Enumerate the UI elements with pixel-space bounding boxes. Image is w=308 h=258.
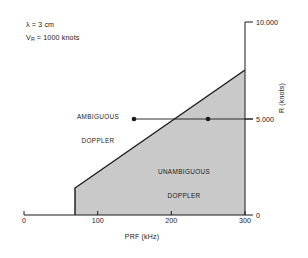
y-tick-label-10000: 10.000 bbox=[256, 18, 278, 27]
y-tick-label-0: 0 bbox=[256, 211, 260, 220]
x-tick-label-100: 100 bbox=[83, 216, 113, 225]
unambiguous-doppler-label-line1: UNAMBIGUOUS bbox=[147, 168, 221, 176]
parameter-annotations: λ = 3 cm VR = 1000 knots bbox=[26, 20, 79, 45]
unambiguous-doppler-label: UNAMBIGUOUS DOPPLER bbox=[147, 152, 221, 216]
wavelength-annotation: λ = 3 cm bbox=[26, 20, 79, 29]
ambiguous-doppler-label-line1: AMBIGUOUS bbox=[66, 113, 130, 121]
ambiguous-doppler-label-line2: DOPPLER bbox=[66, 137, 130, 145]
doppler-ambiguity-chart: λ = 3 cm VR = 1000 knots AMBIGUOUS DOPPL… bbox=[0, 0, 308, 258]
y-tick-label-5000: 5.000 bbox=[256, 115, 274, 124]
velocity-annotation: VR = 1000 knots bbox=[26, 33, 79, 42]
x-tick-label-0: 0 bbox=[9, 216, 39, 225]
unambiguous-doppler-label-line2: DOPPLER bbox=[147, 192, 221, 200]
ambiguous-doppler-label: AMBIGUOUS DOPPLER bbox=[66, 97, 130, 161]
x-tick-label-200: 200 bbox=[156, 216, 186, 225]
y-axis-title: R (knots) bbox=[278, 68, 287, 128]
data-point-marker bbox=[132, 117, 137, 122]
data-point-marker bbox=[206, 117, 211, 122]
velocity-value: = 1000 knots bbox=[35, 33, 80, 42]
x-axis-title: PRF (kHz) bbox=[92, 233, 192, 242]
